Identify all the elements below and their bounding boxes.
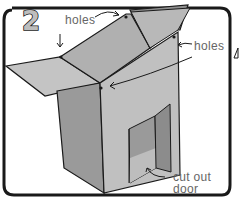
hole-icon (172, 35, 175, 38)
arrow-icon (178, 42, 192, 47)
arrow-icon (95, 11, 119, 17)
step-number: 2 (22, 6, 40, 36)
hole-icon (99, 86, 102, 89)
edge-mark (234, 48, 238, 58)
step-number-badge: 2 (22, 6, 40, 36)
label-holes-right: holes (194, 41, 224, 52)
door-flap (155, 104, 171, 172)
label-holes-top: holes (65, 15, 95, 26)
hole-icon (59, 55, 62, 58)
hole-icon (124, 15, 127, 18)
arrow-icon (57, 34, 63, 47)
label-cutout-line2: door (173, 184, 198, 195)
box-left-side (57, 83, 104, 193)
